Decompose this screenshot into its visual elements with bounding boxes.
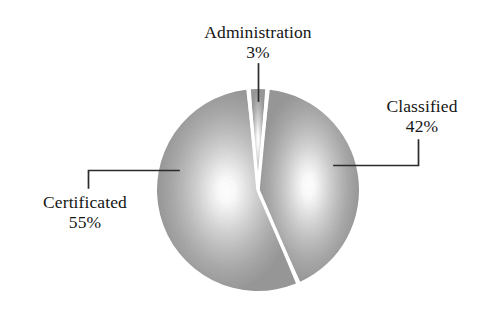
pie-label-classified-value: 42% (362, 116, 482, 136)
pie-label-classified-name: Classified (362, 96, 482, 116)
pie-label-certificated-value: 55% (10, 212, 160, 232)
chart-page: Administration 3% Classified 42% Certifi… (0, 0, 491, 312)
pie-label-certificated-name: Certificated (10, 192, 160, 212)
pie-label-classified: Classified 42% (362, 96, 482, 136)
pie-label-certificated: Certificated 55% (10, 192, 160, 232)
pie-label-administration-value: 3% (178, 42, 338, 62)
pie-label-administration-name: Administration (178, 22, 338, 42)
pie-label-administration: Administration 3% (178, 22, 338, 62)
